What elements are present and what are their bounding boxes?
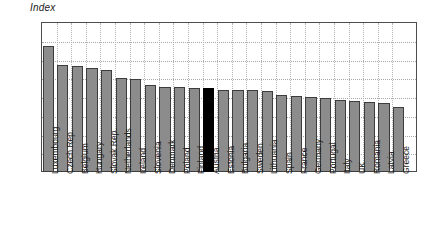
x-tick-label: Romania: [373, 140, 382, 174]
x-tick-label: Denmark: [168, 140, 177, 174]
x-tick-label: Austria: [212, 148, 221, 174]
index-bar-chart: Index 0.00.10.20.30.40.50.60.70.8 Luxemb…: [0, 0, 434, 243]
x-tick-label: Germany: [314, 139, 323, 174]
x-tick-label: Slovak Rep.: [110, 128, 119, 174]
x-tick-label: Finland: [197, 146, 206, 174]
x-axis-category-labels: LuxembourgCzech Rep.BelgiumHungarySlovak…: [41, 174, 417, 243]
x-tick-label: Latvia: [387, 151, 396, 174]
x-tick-label: Estonia: [227, 146, 236, 174]
x-tick-label: Belgium: [81, 143, 90, 174]
x-tick-label: Bulgaria: [241, 143, 250, 174]
y-axis-title: Index: [30, 2, 55, 13]
x-tick-label: Lithuania: [270, 139, 279, 174]
x-tick-label: Netherlands: [124, 128, 133, 174]
x-tick-label: Poland: [183, 148, 192, 174]
x-tick-label: Greece: [402, 146, 411, 174]
x-tick-label: Italy: [343, 158, 352, 174]
x-tick-label: France: [300, 148, 309, 174]
x-tick-label: UK: [358, 162, 367, 174]
x-tick-label: Ireland: [139, 148, 148, 174]
x-tick-label: Slovenia: [154, 141, 163, 174]
x-tick-label: Luxembourg: [51, 127, 60, 174]
x-tick-label: Portugal: [329, 142, 338, 174]
x-tick-label: Czech Rep.: [66, 130, 75, 174]
x-tick-label: Sweden: [256, 143, 265, 174]
x-tick-label: Spain: [285, 152, 294, 174]
x-tick-label: Hungary: [95, 142, 104, 174]
